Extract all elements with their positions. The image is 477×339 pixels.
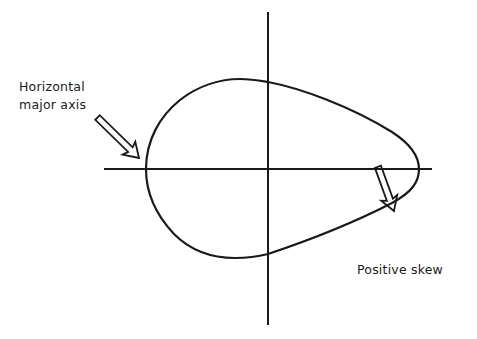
skew-diagram: [0, 0, 477, 339]
major-axis-label: Horizontal major axis: [19, 78, 86, 114]
major-axis-arrow-icon: [91, 111, 145, 164]
positive-skew-label: Positive skew: [357, 261, 443, 279]
major-axis-label-line1: Horizontal: [19, 78, 86, 96]
major-axis-label-line2: major axis: [19, 96, 86, 114]
